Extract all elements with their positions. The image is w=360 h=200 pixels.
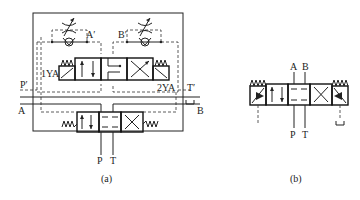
label-1ya: 1YA (41, 68, 60, 79)
caption-b: (b) (290, 173, 302, 185)
label-b-prime: B′ (118, 29, 127, 40)
label-2ya: 2YA (157, 82, 176, 93)
label-b-t: T (302, 129, 308, 140)
label-b-p: P (290, 129, 296, 140)
label-a-prime: A′ (86, 29, 95, 40)
figure-b (250, 72, 348, 128)
caption-a: (a) (101, 173, 112, 185)
throttle-check-valve-b (126, 18, 163, 46)
spring-left (61, 60, 73, 66)
tank-icon-b (336, 121, 344, 125)
label-b: B (197, 105, 204, 116)
label-p: P (97, 155, 103, 166)
hydraulic-diagram: A′ B′ 1YA 2YA P′ T′ A B P T (a) (0, 0, 360, 200)
pilot-valve (59, 58, 169, 80)
label-p-prime: P′ (20, 79, 28, 90)
label-a: A (18, 105, 26, 116)
spring-right (155, 60, 167, 66)
main-valve (62, 112, 158, 132)
label-b-a: A (290, 61, 298, 72)
label-t-prime: T′ (187, 82, 195, 93)
label-b-b: B (302, 61, 309, 72)
throttle-check-valve-a (51, 18, 89, 46)
tank-icon (186, 100, 194, 104)
label-t: T (110, 155, 116, 166)
